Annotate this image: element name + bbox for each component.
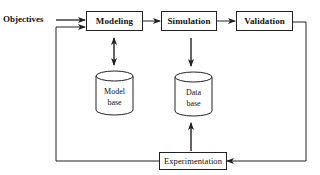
data-base-label-line2: base xyxy=(175,98,212,109)
model-base-label: Model base xyxy=(96,86,133,108)
diagram-canvas: Objectives Modeling Simulation Validatio… xyxy=(0,0,320,175)
experimentation-box: Experimentation xyxy=(159,152,227,170)
data-base-label-line1: Data xyxy=(175,87,212,98)
validation-box: Validation xyxy=(236,11,293,31)
model-base-label-line1: Model xyxy=(96,86,133,97)
experimentation-label: Experimentation xyxy=(164,156,222,166)
model-base-label-line2: base xyxy=(96,97,133,108)
simulation-label: Simulation xyxy=(167,16,210,26)
objectives-label: Objectives xyxy=(3,14,44,24)
data-base-label: Data base xyxy=(175,87,212,109)
modeling-label: Modeling xyxy=(96,16,133,26)
validation-label: Validation xyxy=(244,16,285,26)
modeling-box: Modeling xyxy=(86,11,143,31)
validation-to-experimentation-arrow xyxy=(227,22,306,161)
simulation-box: Simulation xyxy=(161,11,217,31)
